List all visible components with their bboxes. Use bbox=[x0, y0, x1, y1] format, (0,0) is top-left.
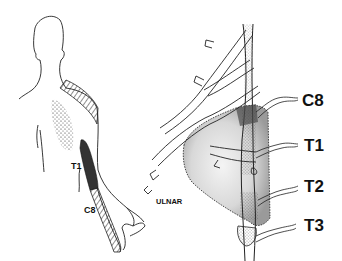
anatomy-diagram: T1 C8 ULNAR C8 T1 T2 T3 bbox=[0, 0, 342, 261]
label-t2-root: T2 bbox=[304, 178, 324, 195]
back-dotted-dermatome bbox=[51, 100, 73, 151]
body-outline bbox=[19, 16, 145, 252]
t1-dermatome-dark bbox=[80, 140, 98, 190]
c8-dermatome-forearm bbox=[90, 188, 121, 252]
label-t1-dermatome: T1 bbox=[71, 162, 82, 171]
label-c8-dermatome: C8 bbox=[84, 206, 96, 215]
label-t1-root: T1 bbox=[304, 137, 324, 154]
diagram-artwork bbox=[0, 0, 342, 261]
label-ulnar-nerve: ULNAR bbox=[156, 198, 182, 206]
label-t3-root: T3 bbox=[304, 217, 324, 234]
label-c8-root: C8 bbox=[302, 92, 324, 109]
